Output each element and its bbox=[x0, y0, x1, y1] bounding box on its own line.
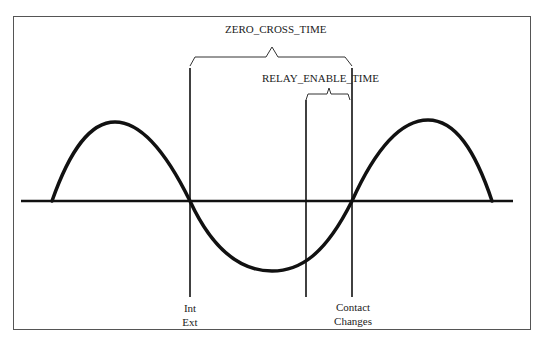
int-label: Int bbox=[180, 301, 200, 315]
zero-cross-time-label: ZERO_CROSS_TIME bbox=[225, 22, 326, 36]
relay-enable-brace bbox=[306, 88, 350, 100]
sine-wave-diagram bbox=[0, 0, 543, 346]
ac-sine-wave bbox=[52, 120, 492, 271]
ext-label: Ext bbox=[180, 315, 200, 329]
zero-cross-brace bbox=[190, 47, 352, 66]
contact-label: Contact bbox=[330, 300, 376, 314]
changes-label: Changes bbox=[330, 314, 376, 328]
relay-enable-time-label: RELAY_ENABLE_TIME bbox=[262, 71, 379, 85]
